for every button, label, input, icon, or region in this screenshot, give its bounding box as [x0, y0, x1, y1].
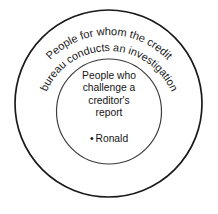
inner-set-label-line-2: challenge a — [57, 82, 161, 94]
bullet-icon: • — [90, 133, 94, 145]
inner-set-member-list: •Ronald — [57, 133, 161, 145]
inner-set-label-line-1: People who — [57, 70, 161, 82]
euler-diagram: People for whom the credit bureau conduc… — [0, 0, 218, 214]
inner-set-label: People who challenge a creditor's report — [57, 70, 161, 120]
inner-set-label-line-4: report — [57, 107, 161, 119]
member-name: Ronald — [95, 133, 128, 144]
member-item-ronald: •Ronald — [57, 133, 161, 145]
inner-set-label-line-3: creditor's — [57, 95, 161, 107]
